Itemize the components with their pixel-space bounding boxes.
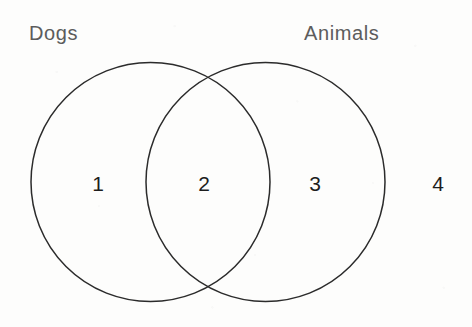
region-number-1: 1: [78, 173, 118, 194]
region-number-3: 3: [295, 173, 335, 194]
set-label-animals: Animals: [304, 23, 379, 43]
region-number-4: 4: [418, 173, 458, 194]
region-number-2: 2: [184, 173, 224, 194]
set-label-dogs: Dogs: [29, 23, 78, 43]
venn-diagram-canvas: Dogs Animals 1 2 3 4: [0, 0, 472, 327]
venn-circles-group: [0, 0, 472, 327]
set-circle-dogs: [31, 63, 270, 302]
set-circle-animals: [146, 63, 385, 302]
